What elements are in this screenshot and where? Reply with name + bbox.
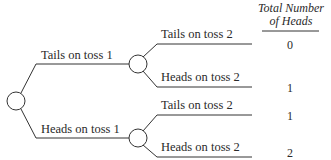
node-after-tails-1 bbox=[129, 55, 147, 73]
coin-toss-tree-diagram: Tails on toss 1 Heads on toss 1 Tails on… bbox=[0, 0, 331, 160]
total-ht: 1 bbox=[287, 109, 293, 123]
root-node bbox=[7, 92, 25, 110]
label-heads-toss-2-b: Heads on toss 2 bbox=[161, 140, 240, 154]
total-tt: 0 bbox=[287, 38, 293, 52]
total-th: 1 bbox=[287, 81, 293, 95]
node-after-heads-1 bbox=[129, 129, 147, 147]
label-tails-toss-1: Tails on toss 1 bbox=[41, 48, 113, 62]
branch-ht bbox=[143, 115, 252, 131]
header-line-2: of Heads bbox=[270, 14, 313, 28]
total-hh: 2 bbox=[287, 146, 293, 160]
label-heads-toss-2-a: Heads on toss 2 bbox=[161, 70, 240, 84]
label-heads-toss-1: Heads on toss 1 bbox=[41, 122, 120, 136]
header-line-1: Total Number bbox=[258, 1, 324, 15]
branch-tails-toss-1 bbox=[21, 64, 129, 93]
label-tails-toss-2-b: Tails on toss 2 bbox=[161, 98, 233, 112]
label-tails-toss-2-a: Tails on toss 2 bbox=[161, 27, 233, 41]
branch-tt bbox=[143, 44, 252, 57]
